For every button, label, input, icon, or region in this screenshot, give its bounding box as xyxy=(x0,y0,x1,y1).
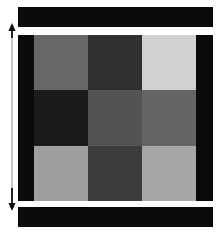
bottom-black-bar xyxy=(18,207,213,227)
checkerboard-grid xyxy=(34,35,196,201)
vertical-extent-arrows xyxy=(6,22,18,212)
arrow-down-icon xyxy=(8,188,15,211)
checker-cell-r1c3 xyxy=(142,35,196,90)
right-black-bar xyxy=(196,35,213,201)
checker-cell-r2c2 xyxy=(88,90,142,145)
top-black-bar xyxy=(18,7,213,27)
checker-cell-r3c2 xyxy=(88,146,142,201)
arrow-up-icon xyxy=(8,23,15,38)
checker-cell-r3c3 xyxy=(142,146,196,201)
checker-cell-r2c3 xyxy=(142,90,196,145)
checker-cell-r1c2 xyxy=(88,35,142,90)
checkerboard-figure xyxy=(0,0,221,235)
checker-cell-r3c1 xyxy=(34,146,88,201)
checker-cell-r1c1 xyxy=(34,35,88,90)
checker-cell-r2c1 xyxy=(34,90,88,145)
left-black-bar xyxy=(18,35,34,201)
